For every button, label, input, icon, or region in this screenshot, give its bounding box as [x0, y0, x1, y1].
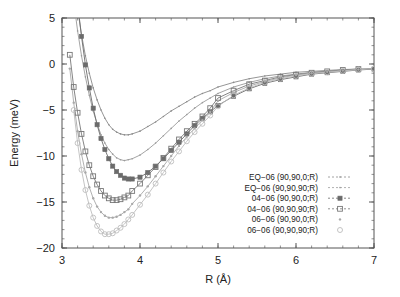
data-marker — [120, 133, 122, 135]
data-marker — [119, 214, 121, 216]
data-marker — [124, 160, 126, 162]
data-marker — [92, 197, 94, 199]
data-marker — [163, 116, 165, 118]
data-marker — [73, 101, 75, 103]
data-marker — [122, 176, 126, 180]
data-marker — [81, 55, 83, 57]
data-marker — [217, 93, 219, 95]
data-marker — [116, 131, 118, 133]
data-marker — [115, 170, 119, 174]
data-marker — [112, 153, 114, 155]
data-marker — [217, 86, 219, 88]
data-marker — [84, 171, 86, 173]
data-marker — [155, 142, 157, 144]
data-marker — [217, 100, 219, 102]
data-marker — [147, 149, 149, 151]
data-marker — [118, 173, 122, 177]
x-axis-label: R (Å) — [205, 273, 231, 285]
x-tick-label: 4 — [137, 254, 143, 266]
data-marker — [100, 109, 102, 111]
legend-label: EQ−06 (90,90,90;R) — [244, 184, 318, 193]
data-marker — [115, 216, 117, 218]
data-marker — [194, 107, 196, 109]
x-tick-label: 6 — [293, 254, 299, 266]
data-marker — [112, 216, 114, 218]
data-marker — [186, 114, 188, 116]
data-marker — [209, 97, 211, 99]
data-marker — [91, 106, 95, 110]
x-tick-label: 5 — [215, 254, 221, 266]
data-marker — [127, 208, 129, 210]
data-marker — [233, 86, 235, 88]
data-marker — [147, 126, 149, 128]
data-marker — [100, 134, 102, 136]
data-marker — [342, 69, 344, 71]
y-tick-label: −10 — [36, 150, 55, 162]
data-marker — [155, 121, 157, 123]
data-marker — [186, 101, 188, 103]
legend-label: EQ−06 (90,90,0;R) — [249, 173, 318, 182]
legend-label: 06−06 (90,90,90;R) — [247, 226, 318, 235]
data-marker — [339, 218, 341, 220]
data-marker — [264, 75, 266, 77]
y-tick-label: 5 — [49, 12, 55, 24]
data-marker — [139, 154, 141, 156]
data-marker — [108, 124, 110, 126]
data-marker — [233, 82, 235, 84]
data-marker — [128, 159, 130, 161]
data-marker — [131, 133, 133, 135]
legend-label: 04−06 (90,90,90;R) — [247, 205, 318, 214]
data-marker — [89, 94, 91, 96]
data-marker — [147, 185, 149, 187]
y-tick-label: 0 — [49, 58, 55, 70]
y-tick-label: −20 — [36, 242, 55, 254]
legend-label: 04−06 (90,90,0;R) — [252, 194, 319, 203]
data-marker — [88, 186, 90, 188]
data-marker — [194, 96, 196, 98]
data-marker — [264, 80, 266, 82]
data-marker — [99, 136, 103, 140]
chart-figure: 34567 50−5−10−15−20 R (Å) Energy (meV) E… — [0, 0, 400, 297]
data-marker — [170, 110, 172, 112]
data-marker — [326, 71, 328, 73]
data-marker — [138, 175, 142, 179]
data-marker — [80, 153, 82, 155]
data-marker — [77, 30, 79, 32]
y-tick-label: −15 — [36, 196, 55, 208]
data-marker — [103, 147, 107, 151]
y-axis-label: Energy (meV) — [8, 99, 20, 167]
data-marker — [130, 177, 134, 181]
data-marker — [178, 120, 180, 122]
data-marker — [295, 74, 297, 76]
data-marker — [128, 134, 130, 136]
data-marker — [248, 78, 250, 80]
data-marker — [104, 142, 106, 144]
data-marker — [193, 124, 197, 128]
data-marker — [89, 72, 91, 74]
data-marker — [87, 86, 91, 90]
data-marker — [162, 165, 164, 167]
potential-energy-curve-plot: 34567 50−5−10−15−20 R (Å) Energy (meV) E… — [0, 0, 400, 297]
data-marker — [76, 130, 78, 132]
legend-label: 06−06 (90,90,0;R) — [252, 215, 319, 224]
data-marker — [95, 123, 99, 127]
data-marker — [104, 215, 106, 217]
data-marker — [69, 67, 71, 69]
data-marker — [92, 87, 94, 89]
data-marker — [100, 211, 102, 213]
data-marker — [139, 130, 141, 132]
data-marker — [169, 148, 173, 152]
data-marker — [178, 145, 180, 147]
data-marker — [279, 77, 281, 79]
data-marker — [123, 211, 125, 213]
data-marker — [338, 196, 342, 200]
data-marker — [83, 63, 87, 67]
data-marker — [96, 99, 98, 101]
data-marker — [178, 106, 180, 108]
data-marker — [104, 117, 106, 119]
data-marker — [108, 149, 110, 151]
data-marker — [170, 155, 172, 157]
data-marker — [79, 34, 83, 38]
data-marker — [186, 135, 188, 137]
data-marker — [126, 177, 130, 181]
